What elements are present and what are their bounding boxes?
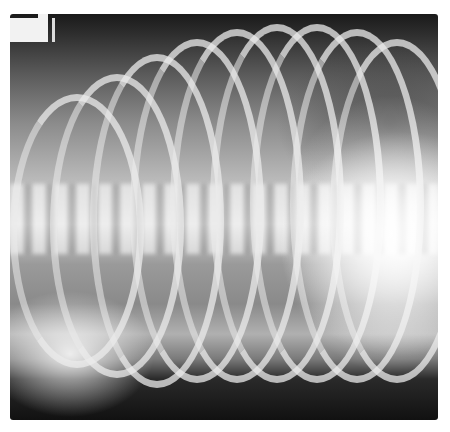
soft-tissue-density [278,94,438,374]
rib-cage [10,14,438,420]
